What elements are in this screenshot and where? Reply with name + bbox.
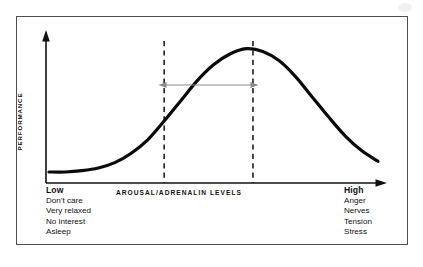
- optimal-zone-arrowhead-left-icon: [159, 82, 167, 88]
- low-arousal-item: Don't care: [46, 196, 91, 207]
- high-arousal-item: Tension: [344, 217, 372, 228]
- x-axis: [46, 179, 387, 187]
- low-arousal-heading: Low: [46, 185, 91, 196]
- low-arousal-item: Asleep: [46, 227, 91, 238]
- optimal-zone-double-arrow: [159, 82, 259, 88]
- x-axis-arrowhead-icon: [376, 179, 388, 187]
- x-axis-label: AROUSAL/ADRENALIN LEVELS: [116, 189, 242, 196]
- optimal-zone-arrowhead-right-icon: [251, 82, 259, 88]
- low-arousal-descriptor-list: Low Don't care Very relaxed No interest …: [46, 185, 91, 238]
- high-arousal-item: Nerves: [344, 206, 372, 217]
- high-arousal-item: Anger: [344, 196, 372, 207]
- high-arousal-heading: High: [344, 185, 372, 196]
- high-arousal-item: Stress: [344, 227, 372, 238]
- high-arousal-descriptor-list: High Anger Nerves Tension Stress: [344, 185, 372, 238]
- y-axis-label: PERFORMANCE: [16, 77, 23, 167]
- low-arousal-item: No interest: [46, 217, 91, 228]
- performance-curve: [49, 49, 378, 172]
- y-axis-arrowhead-icon: [42, 30, 50, 42]
- chart-figure: PERFORMANCE AROUSAL/ADRENALIN LEVELS Low…: [0, 0, 423, 267]
- low-arousal-item: Very relaxed: [46, 206, 91, 217]
- y-axis: [42, 30, 50, 183]
